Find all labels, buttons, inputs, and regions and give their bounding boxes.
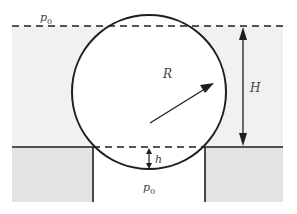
diagram-canvas: p0 R H h p0: [0, 0, 297, 214]
sphere: [72, 15, 226, 169]
label-height: H: [249, 81, 261, 95]
label-gap: h: [155, 153, 162, 166]
label-p0-bottom: p0: [143, 181, 155, 196]
label-p0-top: p0: [40, 11, 52, 26]
left-wall-block: [12, 147, 93, 202]
label-radius: R: [162, 67, 172, 81]
right-wall-block: [205, 147, 283, 202]
